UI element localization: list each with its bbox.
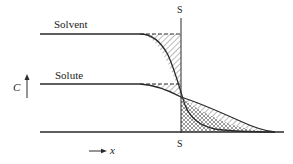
interface-label-top: S xyxy=(177,4,183,15)
solvent-curve xyxy=(40,34,275,132)
diffusion-diagram: Solvent Solute S S C x xyxy=(0,0,293,164)
y-axis-label: C xyxy=(13,81,21,93)
solvent-label: Solvent xyxy=(54,18,88,30)
x-axis-label: x xyxy=(109,144,115,156)
solute-hatched-area-left xyxy=(140,84,181,97)
solute-label: Solute xyxy=(55,69,83,81)
interface-label-bottom: S xyxy=(177,138,183,149)
